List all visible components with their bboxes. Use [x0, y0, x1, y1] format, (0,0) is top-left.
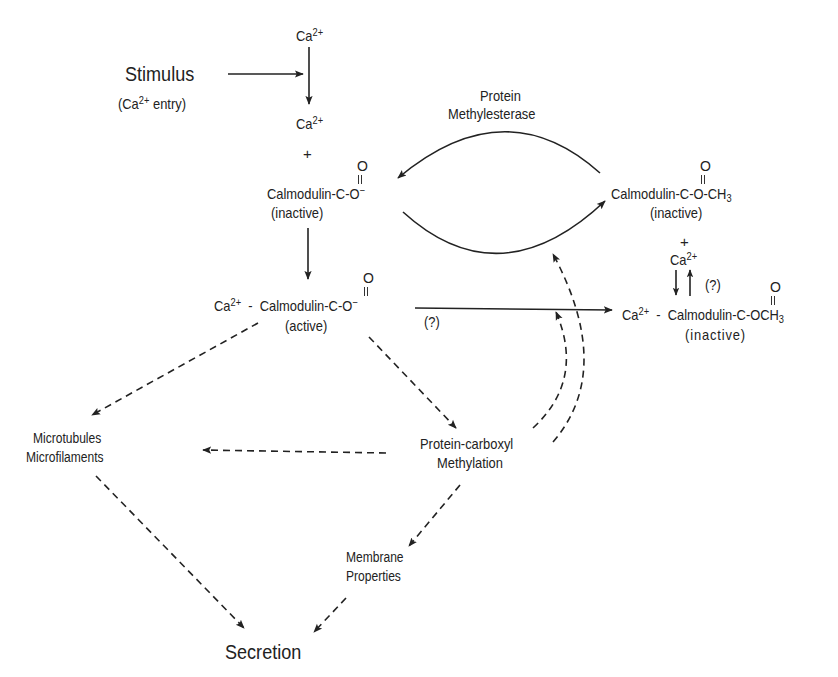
ca-symbol: Ca — [622, 306, 639, 323]
methylesterase-label-line2: Methylesterase — [448, 106, 535, 121]
active-to-methyl-arrow — [415, 308, 612, 310]
calmodulin-name: Calmodulin-C-O — [260, 297, 352, 314]
plus-sign-2: + — [680, 234, 689, 249]
secretion-label: Secretion — [225, 641, 301, 662]
carboxyl-to-microtubules-arrow — [203, 450, 386, 453]
calmodulin-inactive: Calmodulin-C-O− — [267, 186, 365, 201]
stimulus-sub-suffix: entry) — [149, 95, 186, 112]
ca-calmodulin-methyl-inactive-state: (inactive) — [685, 327, 746, 342]
methylesterase-label-line1: Protein — [480, 88, 521, 103]
ca-calmodulin-methyl-inactive: Ca2+ - Calmodulin-C-OCH3 — [622, 307, 784, 322]
calmodulin-name: Calmodulin-C-O-CH — [611, 185, 726, 202]
bond-dash: - — [248, 297, 252, 314]
question-mid: (?) — [424, 314, 440, 329]
subscript: 3 — [726, 192, 731, 204]
calmodulin-methyl-inactive-state: (inactive) — [650, 205, 702, 220]
protein-carboxyl-label-line2: Methylation — [437, 455, 503, 470]
carboxyl-to-active-methyl-arrow — [533, 312, 566, 428]
question-right: (?) — [705, 277, 721, 292]
stimulus-subtitle: (Ca2+ entry) — [118, 96, 186, 111]
membrane-label-line2: Properties — [346, 569, 401, 583]
charge: − — [359, 184, 364, 196]
calmodulin-name: Calmodulin-C-O — [267, 185, 359, 202]
double-bond — [358, 175, 362, 184]
plus-sign-1: + — [303, 146, 312, 161]
subscript: 3 — [779, 313, 784, 325]
double-bond — [771, 296, 775, 305]
calmodulin-name: Calmodulin-C-OCH — [668, 306, 779, 323]
membrane-label-line1: Membrane — [346, 550, 404, 564]
ca-ion-mid: Ca2+ — [296, 116, 323, 131]
microtubules-label-line2: Microfilaments — [26, 450, 104, 464]
ca-symbol: Ca — [296, 115, 313, 132]
ca-calmodulin-active: Ca2+ - Calmodulin-C-O− — [214, 298, 358, 313]
carboxyl-to-methylation-arc-arrow — [553, 254, 584, 442]
stimulus-sub-charge: 2+ — [139, 94, 150, 106]
ca-symbol: Ca — [296, 27, 313, 44]
carbonyl-oxygen: O — [363, 270, 374, 286]
ca-symbol: Ca — [670, 251, 687, 268]
ca-charge: 2+ — [687, 250, 698, 262]
ca-calmodulin-active-state: (active) — [285, 318, 327, 333]
ca-charge: 2+ — [639, 305, 650, 317]
ca-charge: 2+ — [313, 114, 324, 126]
membrane-to-secretion-arrow — [314, 598, 346, 632]
bond-dash: - — [656, 306, 660, 323]
double-bond — [701, 175, 705, 184]
ca-ion-right: Ca2+ — [670, 252, 697, 267]
ca-ion-top: Ca2+ — [296, 28, 323, 43]
active-to-microtubules-arrow — [92, 323, 258, 415]
ca-symbol: Ca — [214, 297, 231, 314]
microtubules-label-line1: Microtubules — [33, 431, 101, 445]
ca-charge: 2+ — [313, 26, 324, 38]
charge: − — [352, 296, 357, 308]
protein-carboxyl-label-line1: Protein-carboxyl — [420, 436, 513, 451]
carbonyl-oxygen: O — [700, 158, 711, 174]
carbonyl-oxygen: O — [357, 158, 368, 174]
calmodulin-inactive-state: (inactive) — [271, 205, 323, 220]
active-to-carboxyl-arrow — [369, 337, 456, 428]
methylation-arc — [403, 201, 605, 253]
stimulus-sub-prefix: (Ca — [118, 95, 139, 112]
carbonyl-oxygen: O — [770, 279, 781, 295]
double-bond — [364, 287, 368, 296]
stimulus-label: Stimulus — [125, 63, 194, 84]
methylesterase-arc — [398, 132, 600, 178]
carboxyl-to-membrane-arrow — [409, 485, 460, 546]
microtubules-to-secretion-arrow — [96, 476, 244, 628]
ca-charge: 2+ — [231, 296, 242, 308]
calmodulin-methyl-inactive: Calmodulin-C-O-CH3 — [611, 186, 732, 201]
